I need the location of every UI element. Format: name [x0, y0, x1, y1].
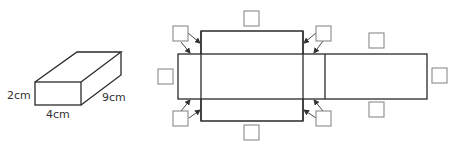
arrow-icon — [189, 110, 200, 118]
answer-box-top-left-corner[interactable] — [173, 26, 188, 41]
arrow-icon — [181, 42, 190, 53]
answer-box-left-side[interactable] — [158, 69, 173, 84]
depth-label: 9cm — [102, 91, 126, 104]
width-label: 4cm — [46, 108, 70, 121]
answer-box-right-bottom[interactable] — [369, 102, 384, 117]
arrow-icon — [304, 33, 316, 43]
answer-box-bottom-left-corner[interactable] — [173, 111, 188, 126]
arrow-icon — [181, 100, 190, 111]
answer-box-top-center[interactable] — [244, 11, 259, 26]
answer-box-right-side[interactable] — [432, 68, 447, 83]
arrow-icon — [314, 100, 323, 111]
answer-box-bottom-right-corner[interactable] — [316, 111, 331, 126]
answer-box-top-right-corner[interactable] — [316, 26, 331, 41]
pointer-arrows — [181, 33, 323, 118]
answer-box-right-top[interactable] — [369, 33, 384, 48]
arrow-icon — [188, 33, 200, 43]
net-bottom-face — [201, 99, 303, 121]
cuboid-net — [178, 31, 427, 121]
answer-box-bottom-center[interactable] — [244, 125, 259, 140]
cuboid-front-face — [35, 82, 81, 105]
height-label: 2cm — [7, 89, 31, 102]
arrow-icon — [304, 110, 316, 118]
cuboid-top-face — [35, 52, 121, 82]
cuboid-figure: 2cm 4cm 9cm — [7, 52, 126, 121]
net-top-face — [201, 31, 303, 54]
diagram-canvas: 2cm 4cm 9cm — [0, 0, 450, 148]
arrow-icon — [314, 41, 323, 53]
